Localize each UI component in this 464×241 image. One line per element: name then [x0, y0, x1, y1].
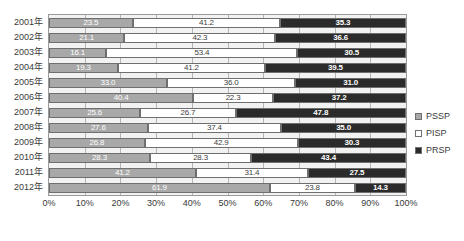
- bar-row[interactable]: 40.422.337.2: [49, 93, 406, 103]
- legend: PSSPPISPPRSP: [415, 108, 464, 159]
- bar-segment-prsp[interactable]: 30.3: [298, 138, 406, 148]
- bar-row[interactable]: 41.231.427.5: [49, 168, 406, 178]
- value-tick-label: 40%: [183, 199, 201, 208]
- category-label: 2009年: [14, 138, 43, 147]
- bar-row[interactable]: 23.541.235.3: [49, 18, 406, 28]
- bar-segment-pisp[interactable]: 23.8: [270, 183, 355, 193]
- bar-value-label: 37.4: [207, 124, 222, 132]
- bar-segment-pisp[interactable]: 41.2: [133, 18, 280, 28]
- legend-item-prsp[interactable]: PRSP: [415, 142, 464, 159]
- value-tick-label: 100%: [394, 199, 417, 208]
- bar-segment-pssp[interactable]: 40.4: [49, 93, 193, 103]
- bar-segment-pssp[interactable]: 27.6: [49, 123, 148, 133]
- bar-row[interactable]: 61.923.814.3: [49, 183, 406, 193]
- bar-row[interactable]: 28.328.343.4: [49, 153, 406, 163]
- bar-value-label: 26.7: [181, 109, 196, 117]
- bar-row[interactable]: 19.341.239.5: [49, 63, 406, 73]
- bar-value-label: 41.2: [115, 169, 130, 177]
- value-tick-label: 30%: [147, 199, 165, 208]
- bar-segment-prsp[interactable]: 27.5: [308, 168, 406, 178]
- bar-row[interactable]: 25.626.747.8: [49, 108, 406, 118]
- bar-segment-pisp[interactable]: 41.2: [118, 63, 265, 73]
- legend-label: PISP: [426, 129, 447, 138]
- category-label: 2008年: [14, 123, 43, 132]
- category-label: 2004年: [14, 63, 43, 72]
- legend-swatch-icon: [415, 147, 422, 154]
- bar-segment-pisp[interactable]: 22.3: [193, 93, 273, 103]
- bar-row[interactable]: 16.153.430.5: [49, 48, 406, 58]
- bar-value-label: 27.5: [350, 169, 365, 177]
- legend-item-pssp[interactable]: PSSP: [415, 108, 464, 125]
- bar-segment-prsp[interactable]: 43.4: [251, 153, 406, 163]
- value-tick-label: 90%: [361, 199, 379, 208]
- bar-segment-pssp[interactable]: 61.9: [49, 183, 270, 193]
- bar-value-label: 47.8: [313, 109, 328, 117]
- value-tick-label: 60%: [254, 199, 272, 208]
- legend-label: PRSP: [426, 146, 451, 155]
- bar-value-label: 43.4: [321, 154, 336, 162]
- bar-value-label: 19.3: [76, 64, 91, 72]
- bar-row[interactable]: 27.637.435.0: [49, 123, 406, 133]
- legend-label: PSSP: [426, 112, 450, 121]
- value-tick-label: 20%: [111, 199, 129, 208]
- category-label: 2010年: [14, 153, 43, 162]
- bar-value-label: 14.3: [373, 184, 388, 192]
- bar-segment-pssp[interactable]: 41.2: [49, 168, 196, 178]
- bar-value-label: 41.2: [184, 64, 199, 72]
- bar-segment-prsp[interactable]: 47.8: [236, 108, 406, 118]
- bar-value-label: 28.3: [92, 154, 107, 162]
- bar-segment-pssp[interactable]: 33.0: [49, 78, 167, 88]
- bar-row[interactable]: 26.842.930.3: [49, 138, 406, 148]
- bar-row[interactable]: 33.036.031.0: [49, 78, 406, 88]
- value-tick-label: 70%: [290, 199, 308, 208]
- category-label: 2001年: [14, 18, 43, 27]
- bar-segment-prsp[interactable]: 36.6: [275, 33, 406, 43]
- bar-value-label: 31.4: [245, 169, 260, 177]
- bar-segment-pisp[interactable]: 36.0: [167, 78, 296, 88]
- value-tick-label: 0%: [42, 199, 55, 208]
- bar-segment-prsp[interactable]: 14.3: [355, 183, 406, 193]
- bar-segment-pisp[interactable]: 28.3: [150, 153, 251, 163]
- bar-segment-pisp[interactable]: 26.7: [140, 108, 235, 118]
- bar-value-label: 37.2: [332, 94, 347, 102]
- bar-segment-pssp[interactable]: 28.3: [49, 153, 150, 163]
- bar-segment-pssp[interactable]: 16.1: [49, 48, 106, 58]
- bar-row[interactable]: 21.142.336.6: [49, 33, 406, 43]
- bar-value-label: 23.8: [305, 184, 320, 192]
- bar-segment-pssp[interactable]: 21.1: [49, 33, 124, 43]
- bar-segment-pisp[interactable]: 31.4: [196, 168, 308, 178]
- bar-segment-pisp[interactable]: 42.3: [124, 33, 275, 43]
- bar-segment-pisp[interactable]: 42.9: [145, 138, 298, 148]
- bar-value-label: 16.1: [70, 49, 85, 57]
- bar-value-label: 30.3: [345, 139, 360, 147]
- stacked-bar-chart: 2001年2002年2003年2004年2005年2006年2007年2008年…: [0, 0, 464, 241]
- bar-segment-pisp[interactable]: 37.4: [148, 123, 282, 133]
- bar-value-label: 27.6: [91, 124, 106, 132]
- bar-value-label: 42.3: [192, 34, 207, 42]
- value-tick-label: 80%: [326, 199, 344, 208]
- bar-value-label: 40.4: [114, 94, 129, 102]
- bar-segment-prsp[interactable]: 37.2: [273, 93, 406, 103]
- bar-segment-prsp[interactable]: 39.5: [265, 63, 406, 73]
- legend-swatch-icon: [415, 130, 422, 137]
- bar-segment-pssp[interactable]: 25.6: [49, 108, 140, 118]
- bar-segment-prsp[interactable]: 35.3: [280, 18, 406, 28]
- bar-value-label: 53.4: [194, 49, 209, 57]
- bar-value-label: 21.1: [79, 34, 94, 42]
- bar-segment-pssp[interactable]: 23.5: [49, 18, 133, 28]
- legend-item-pisp[interactable]: PISP: [415, 125, 464, 142]
- bar-value-label: 39.5: [328, 64, 343, 72]
- bar-value-label: 25.6: [87, 109, 102, 117]
- bar-segment-prsp[interactable]: 30.5: [297, 48, 406, 58]
- bar-segment-prsp[interactable]: 35.0: [281, 123, 406, 133]
- bar-rows: 23.541.235.321.142.336.616.153.430.519.3…: [49, 15, 406, 195]
- value-tick-label: 50%: [218, 199, 236, 208]
- bar-value-label: 23.5: [84, 19, 99, 27]
- legend-swatch-icon: [415, 113, 422, 120]
- bar-segment-pisp[interactable]: 53.4: [106, 48, 297, 58]
- bar-segment-pssp[interactable]: 19.3: [49, 63, 118, 73]
- bar-value-label: 28.3: [193, 154, 208, 162]
- bar-segment-pssp[interactable]: 26.8: [49, 138, 145, 148]
- category-label: 2005年: [14, 78, 43, 87]
- bar-segment-prsp[interactable]: 31.0: [295, 78, 406, 88]
